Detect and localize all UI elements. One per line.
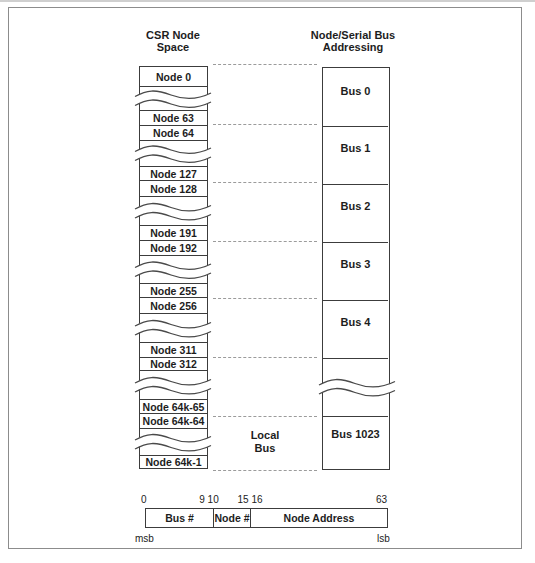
node-box: Node 311	[139, 342, 208, 358]
bus-number-field: Bus #	[146, 509, 214, 527]
dashed-connector	[213, 298, 317, 299]
msb-label: msb	[135, 533, 154, 544]
bus-label: Bus 4	[323, 316, 388, 328]
bus-divider	[323, 184, 388, 185]
node-box: Node 191	[139, 225, 208, 241]
bus-divider	[323, 416, 388, 417]
node-serial-bus-addressing-header: Node/Serial Bus Addressing	[290, 29, 416, 53]
bus-label: Bus 0	[323, 85, 388, 97]
dashed-connector	[213, 182, 317, 183]
break-symbol-icon	[135, 371, 211, 399]
break-symbol-icon	[135, 314, 211, 342]
node-box: Node 64k-65	[139, 399, 208, 414]
bit-label-15-16: 15 16	[230, 494, 270, 505]
bus-label: Bus 1023	[323, 428, 388, 440]
break-symbol-icon	[135, 256, 211, 283]
node-box: Node 312	[139, 357, 208, 371]
serial-bus-column: Bus 0 Bus 1 Bus 2 Bus 3 Bus 4 Bus 1023	[322, 67, 390, 470]
dashed-connector	[213, 124, 317, 125]
node-address-field: Node Address	[251, 509, 387, 527]
node-box: Node 255	[139, 283, 208, 298]
page-top-rule	[0, 0, 535, 2]
break-symbol-icon	[319, 374, 395, 400]
node-number-field: Node #	[214, 509, 251, 527]
bit-label-9-10: 9 10	[189, 494, 229, 505]
node-box: Node 127	[139, 166, 208, 181]
bus-divider	[323, 358, 388, 359]
node-box: Node 128	[139, 180, 208, 197]
figure-border	[8, 7, 522, 549]
node-box: Node 63	[139, 110, 208, 126]
break-symbol-icon	[135, 197, 211, 225]
break-symbol-icon	[135, 87, 211, 110]
dashed-connector	[213, 357, 317, 358]
bus-label: Bus 2	[323, 200, 388, 212]
dashed-connector	[213, 64, 317, 65]
break-symbol-icon	[135, 141, 211, 166]
bus-label: Bus 1	[323, 142, 388, 154]
bit-label-0: 0	[141, 494, 147, 505]
node-box: Node 0	[139, 66, 208, 87]
address-register: Bus # Node # Node Address	[145, 508, 388, 528]
csr-node-column: Node 0 Node 63 Node 64 Node 127 Node 128…	[139, 66, 208, 469]
break-symbol-icon	[135, 429, 211, 455]
node-box: Node 192	[139, 240, 208, 256]
dashed-connector	[213, 241, 317, 242]
bus-divider	[323, 300, 388, 301]
node-box: Node 64k-64	[139, 413, 208, 429]
dashed-connector	[213, 470, 317, 471]
dashed-connector	[213, 416, 317, 417]
csr-node-space-header: CSR Node Space	[107, 29, 239, 53]
bus-label: Bus 3	[323, 258, 388, 270]
lsb-label: lsb	[377, 533, 390, 544]
node-box: Node 64k-1	[139, 455, 208, 469]
bit-label-63: 63	[357, 494, 387, 505]
bus-divider	[323, 242, 388, 243]
local-bus-label: Local Bus	[212, 429, 318, 455]
bus-divider	[323, 126, 388, 127]
node-box: Node 256	[139, 297, 208, 314]
node-box: Node 64	[139, 125, 208, 141]
